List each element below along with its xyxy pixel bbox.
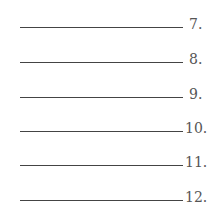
item-number: 9. [189, 87, 202, 101]
answer-row-9: 9. [0, 78, 218, 98]
answer-row-10: 10. [0, 112, 218, 132]
item-number: 12. [185, 190, 207, 204]
blank-line[interactable] [20, 131, 183, 132]
item-number: 11. [185, 155, 207, 169]
blank-line[interactable] [20, 200, 183, 201]
item-number: 8. [189, 52, 202, 66]
answer-row-11: 11. [0, 146, 218, 166]
answer-row-7: 7. [0, 8, 218, 28]
item-number: 10. [185, 121, 207, 135]
blank-line[interactable] [20, 97, 183, 98]
answer-row-12: 12. [0, 181, 218, 201]
blank-line[interactable] [20, 27, 183, 28]
blank-line[interactable] [20, 62, 183, 63]
item-number: 7. [189, 17, 202, 31]
answer-row-8: 8. [0, 43, 218, 63]
blank-line[interactable] [20, 165, 183, 166]
